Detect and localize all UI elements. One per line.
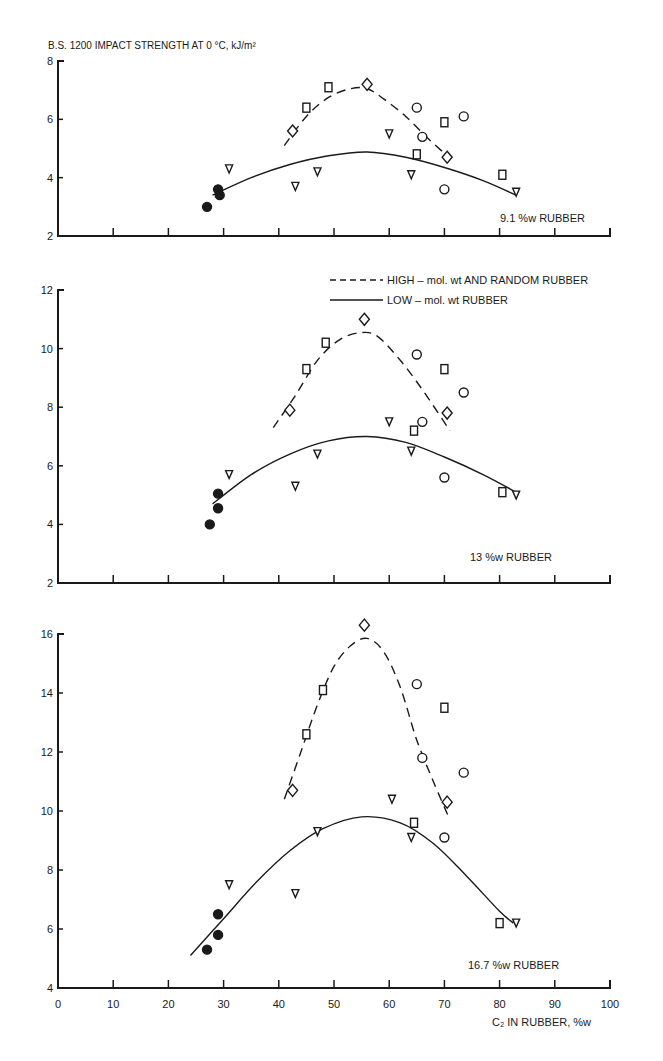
circle-marker [440, 833, 449, 842]
square-marker [499, 488, 506, 497]
x-tick-label: 70 [438, 998, 450, 1010]
diamond-marker [442, 407, 452, 419]
triangle-down-marker [292, 182, 299, 190]
y-tick-label: 10 [41, 343, 53, 355]
square-marker [303, 730, 310, 739]
diamond-marker [288, 125, 298, 137]
square-marker [441, 118, 448, 127]
panel-label: 13 %w RUBBER [470, 551, 552, 563]
filled-circle-marker [203, 202, 212, 211]
y-tick-label: 8 [47, 55, 53, 67]
triangle-down-marker [408, 447, 415, 455]
triangle-down-marker [292, 890, 299, 898]
panel-label: 16.7 %w RUBBER [468, 959, 559, 971]
x-tick-labels: 0102030405060708090100 [55, 998, 619, 1010]
diamond-marker [359, 313, 369, 325]
filled-circle-marker [203, 945, 212, 954]
square-marker [496, 919, 503, 928]
x-tick-label: 10 [107, 998, 119, 1010]
diamond-marker [359, 619, 369, 631]
square-marker [441, 365, 448, 374]
x-tick-label: 80 [493, 998, 505, 1010]
filled-circle-marker [214, 504, 223, 513]
circle-marker [459, 388, 468, 397]
x-tick-label: 40 [273, 998, 285, 1010]
low-mol-wt-curve [213, 152, 517, 195]
legend: HIGH – mol. wt AND RANDOM RUBBER LOW – m… [330, 274, 588, 306]
triangle-down-marker [408, 834, 415, 842]
x-tick-label: 0 [55, 998, 61, 1010]
x-tick-label: 60 [383, 998, 395, 1010]
triangle-down-marker [386, 130, 393, 138]
circle-marker [418, 753, 427, 762]
triangle-down-marker [388, 795, 395, 803]
legend-low-label: LOW – mol. wt RUBBER [387, 294, 508, 306]
square-marker [411, 818, 418, 827]
data-points [205, 313, 519, 529]
circle-marker [440, 185, 449, 194]
axis-lines [58, 61, 610, 236]
triangle-down-marker [226, 881, 233, 889]
filled-circle-marker [214, 930, 223, 939]
filled-circle-marker [214, 489, 223, 498]
y-tick-label: 2 [47, 230, 53, 242]
y-tick-label: 6 [47, 460, 53, 472]
filled-circle-marker [205, 520, 214, 529]
axes: 46810121416 [41, 628, 610, 994]
y-tick-label: 12 [41, 284, 53, 296]
x-tick-label: 30 [217, 998, 229, 1010]
square-marker [303, 103, 310, 112]
square-marker [319, 686, 326, 695]
triangle-down-marker [386, 418, 393, 426]
triangle-down-marker [226, 165, 233, 173]
circle-marker [459, 768, 468, 777]
y-tick-label: 4 [47, 982, 53, 994]
y-tick-label: 2 [47, 577, 53, 589]
y-tick-label: 4 [47, 172, 53, 184]
square-marker [322, 338, 329, 347]
axes: 24681012 [41, 284, 610, 589]
triangle-down-marker [513, 188, 520, 196]
circle-marker [412, 350, 421, 359]
figure: B.S. 1200 IMPACT STRENGTH AT 0 °C, kJ/m²… [0, 0, 663, 1061]
circle-marker [459, 112, 468, 121]
low-mol-wt-curve [213, 436, 517, 503]
y-tick-label: 6 [47, 113, 53, 125]
x-tick-label: 90 [549, 998, 561, 1010]
square-marker [413, 150, 420, 159]
high-mol-wt-curve [284, 88, 447, 156]
triangle-down-marker [408, 171, 415, 179]
square-marker [441, 703, 448, 712]
circle-marker [418, 417, 427, 426]
data-points [203, 619, 520, 954]
circle-marker [440, 473, 449, 482]
high-mol-wt-curve [284, 638, 450, 820]
triangle-down-marker [314, 828, 321, 836]
y-tick-label: 4 [47, 518, 53, 530]
square-marker [303, 365, 310, 374]
y-tick-label: 8 [47, 401, 53, 413]
y-axis-title: B.S. 1200 IMPACT STRENGTH AT 0 °C, kJ/m² [48, 40, 256, 51]
triangle-down-marker [513, 491, 520, 499]
legend-high-label: HIGH – mol. wt AND RANDOM RUBBER [387, 274, 588, 286]
diamond-marker [285, 404, 295, 416]
panel-16-7-rubber: 46810121416 16.7 %w RUBBER [41, 619, 610, 994]
y-tick-label: 6 [47, 923, 53, 935]
triangle-down-marker [314, 168, 321, 176]
axis-lines [58, 290, 610, 583]
x-axis-title: C₂ IN RUBBER, %w [492, 1016, 591, 1028]
triangle-down-marker [226, 471, 233, 479]
low-mol-wt-curve [190, 817, 513, 956]
diamond-marker [288, 784, 298, 796]
y-tick-label: 14 [41, 687, 53, 699]
y-tick-label: 16 [41, 628, 53, 640]
diamond-marker [442, 796, 452, 808]
triangle-down-marker [513, 919, 520, 927]
x-tick-label: 100 [601, 998, 619, 1010]
x-tick-label: 20 [162, 998, 174, 1010]
filled-circle-marker [214, 910, 223, 919]
square-marker [325, 83, 332, 92]
circle-marker [412, 680, 421, 689]
panel-13-rubber: 24681012 13 %w RUBBER [41, 284, 610, 589]
high-mol-wt-curve [273, 332, 450, 430]
